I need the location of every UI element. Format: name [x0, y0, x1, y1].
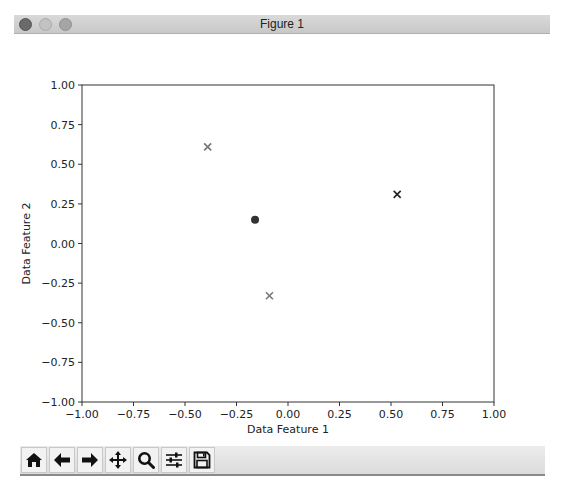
x-tick-label: −0.25: [220, 408, 254, 421]
y-tick-label: 0.75: [51, 119, 76, 132]
axes-frame: [82, 85, 494, 402]
x-tick-label: 0.50: [379, 408, 404, 421]
back-button[interactable]: [49, 447, 75, 473]
x-axis-label: Data Feature 1: [247, 423, 329, 436]
magnifier-icon: [137, 451, 155, 469]
window-title: Figure 1: [14, 17, 550, 31]
x-tick-label: −0.75: [117, 408, 151, 421]
configure-subplots-button[interactable]: [161, 447, 187, 473]
x-tick-label: 0.75: [430, 408, 455, 421]
pan-button[interactable]: [105, 447, 131, 473]
zoom-button[interactable]: [133, 447, 159, 473]
figure-canvas[interactable]: −1.00−0.75−0.50−0.250.000.250.500.751.00…: [0, 34, 563, 444]
forward-button[interactable]: [77, 447, 103, 473]
title-bar[interactable]: Figure 1: [14, 15, 550, 34]
move-icon: [109, 451, 127, 469]
y-axis-label: Data Feature 2: [20, 203, 33, 285]
x-tick-label: 0.00: [276, 408, 301, 421]
x-tick-label: 1.00: [482, 408, 507, 421]
centroid-marker-point: [251, 216, 259, 224]
y-tick-label: −0.75: [41, 356, 75, 369]
save-figure-button[interactable]: [189, 447, 215, 473]
arrow-right-icon: [81, 452, 99, 468]
x-tick-label: 0.25: [327, 408, 352, 421]
y-tick-label: −1.00: [41, 396, 75, 409]
sliders-icon: [165, 451, 183, 469]
y-tick-label: 0.25: [51, 198, 76, 211]
y-tick-label: 1.00: [51, 79, 76, 92]
figure-window: Figure 1 −1.00−0.75−0.50−0.250.000.250.5…: [0, 0, 563, 493]
x-tick-label: −1.00: [65, 408, 99, 421]
home-icon: [25, 452, 43, 468]
scatter-chart: −1.00−0.75−0.50−0.250.000.250.500.751.00…: [0, 34, 563, 444]
arrow-left-icon: [53, 452, 71, 468]
home-button[interactable]: [21, 447, 47, 473]
y-tick-label: 0.50: [51, 158, 76, 171]
y-tick-label: −0.25: [41, 277, 75, 290]
y-tick-label: 0.00: [51, 238, 76, 251]
navigation-toolbar: [20, 446, 545, 476]
floppy-disk-icon: [193, 451, 211, 469]
x-tick-label: −0.50: [168, 408, 202, 421]
y-tick-label: −0.50: [41, 317, 75, 330]
